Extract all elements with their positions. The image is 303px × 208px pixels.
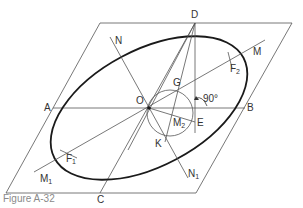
label-B: B xyxy=(247,102,254,113)
label-D: D xyxy=(191,9,198,20)
label-angle-90: 90° xyxy=(203,93,218,104)
label-O: O xyxy=(136,95,144,106)
label-F1: F1 xyxy=(66,153,76,165)
label-F2: F2 xyxy=(230,63,240,75)
label-M: M xyxy=(253,46,261,57)
center-point-O xyxy=(147,106,151,110)
label-N: N xyxy=(115,35,122,46)
label-C: C xyxy=(97,194,104,205)
label-K: K xyxy=(155,138,162,149)
ellipse-construction-diagram: D C A B O N M G E K 90° M2 M1 N1 F1 F2 xyxy=(0,0,303,208)
figure-caption: Figure A-32 xyxy=(3,193,55,204)
label-G: G xyxy=(173,77,181,88)
label-E: E xyxy=(197,117,204,128)
label-N1: N1 xyxy=(188,168,199,180)
label-M1: M1 xyxy=(40,173,52,185)
label-A: A xyxy=(44,102,51,113)
construction-circle xyxy=(147,90,193,136)
